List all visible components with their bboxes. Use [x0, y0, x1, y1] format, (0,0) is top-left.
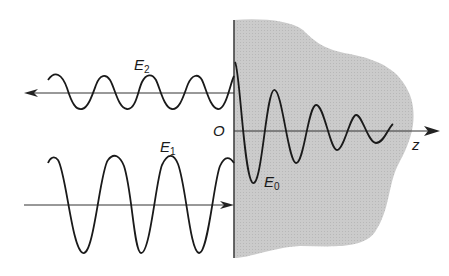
wave-reflection-diagram: E2 E1 O E0 z	[0, 0, 449, 276]
label-z-axis: z	[411, 136, 420, 153]
label-origin: O	[213, 122, 225, 139]
incident-wave-e1	[48, 156, 234, 253]
label-e2: E2	[134, 56, 150, 75]
label-e1: E1	[160, 138, 176, 157]
conducting-medium-region	[234, 19, 414, 258]
reflected-wave-e2	[48, 74, 234, 109]
